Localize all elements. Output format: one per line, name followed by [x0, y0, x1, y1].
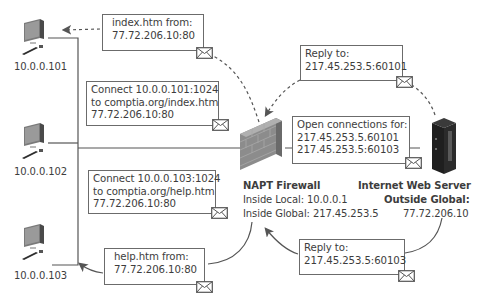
message-line: 217.45.253.5:60103 — [304, 255, 400, 268]
host-103-ip: 10.0.0.103 — [14, 270, 67, 281]
message-connect-101: Connect 10.0.0.101:1024 to comptia.org/i… — [86, 81, 219, 126]
message-line: help.htm from: — [114, 251, 200, 264]
host-101 — [14, 18, 48, 58]
desktop-computer-icon — [14, 122, 48, 162]
envelope-icon — [405, 157, 422, 169]
firewall-inside-global: Inside Global: 217.45.253.5 — [243, 208, 379, 219]
envelope-icon — [212, 119, 229, 131]
message-line: Connect 10.0.0.101:1024 — [91, 84, 214, 97]
message-line: 217.45.253.5.60101 — [297, 132, 405, 145]
message-connect-103: Connect 10.0.0.103:1024 to comptia.org/h… — [88, 170, 216, 214]
host-102-ip: 10.0.0.102 — [14, 166, 67, 177]
server-outside-global-label: Outside Global: — [384, 194, 470, 205]
envelope-icon — [196, 281, 213, 293]
message-line: 77.72.206.10:80 — [114, 264, 200, 277]
envelope-icon — [211, 207, 228, 219]
message-line: 77.72.206.10:80 — [91, 109, 214, 122]
message-line: 77.72.206.10:80 — [93, 198, 211, 211]
server-tower-icon — [430, 117, 460, 175]
message-line: Reply to: — [304, 242, 400, 255]
server-outside-global-value: 77.72.206.10 — [403, 208, 469, 219]
message-reply-60103: Reply to: 217.45.253.5:60103 — [299, 239, 405, 275]
firewall-inside-local: Inside Local: 10.0.0.1 — [243, 194, 348, 205]
desktop-computer-icon — [14, 18, 48, 58]
message-line: index.htm from: — [112, 17, 199, 30]
message-help-from: help.htm from: 77.72.206.10:80 — [104, 248, 205, 285]
web-server — [430, 117, 460, 179]
envelope-icon — [196, 47, 213, 59]
message-line: 77.72.206.10:80 — [112, 30, 199, 43]
message-line: to comptia.org/index.htm — [91, 97, 214, 110]
message-line: to comptia.org/help.htm — [93, 186, 211, 199]
message-line: Connect 10.0.0.103:1024 — [93, 173, 211, 186]
host-102 — [14, 122, 48, 162]
host-101-ip: 10.0.0.101 — [14, 61, 67, 72]
message-line: Open connections for: — [297, 119, 405, 132]
envelope-icon — [398, 270, 415, 282]
envelope-icon — [396, 76, 413, 88]
message-index-from: index.htm from: 77.72.206.10:80 — [102, 14, 204, 51]
message-line: 217.45.253.5:60103 — [297, 144, 405, 157]
host-103 — [14, 223, 48, 263]
brick-wall-icon — [236, 116, 286, 174]
message-reply-60101: Reply to: 217.45.253.5:60101 — [300, 45, 403, 81]
message-open-connections: Open connections for: 217.45.253.5.60101… — [292, 116, 410, 164]
firewall — [236, 116, 286, 178]
server-title: Internet Web Server — [358, 180, 471, 191]
firewall-title: NAPT Firewall — [243, 180, 320, 191]
message-line: Reply to: — [305, 48, 398, 61]
message-line: 217.45.253.5:60101 — [305, 61, 398, 74]
desktop-computer-icon — [14, 223, 48, 263]
